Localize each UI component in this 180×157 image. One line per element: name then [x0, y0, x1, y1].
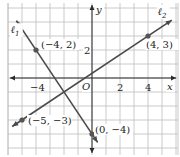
y-axis-arrow-up	[90, 5, 95, 10]
data-point	[145, 33, 150, 38]
point-label: (0, −4)	[95, 124, 130, 135]
x-tick-label: −4	[30, 82, 45, 93]
x-axis-arrow-right	[171, 76, 176, 81]
data-point	[89, 131, 94, 136]
axes	[10, 5, 176, 153]
data-point	[33, 47, 38, 52]
point-label: (−4, 2)	[41, 39, 76, 50]
y-axis-arrow-down	[90, 148, 95, 153]
point-label: (−5, −3)	[28, 115, 72, 126]
x-tick-label: 4	[145, 82, 151, 93]
y-axis-label: y	[95, 4, 102, 15]
origin-label: O	[82, 81, 90, 92]
line-label-subscript: 2	[161, 12, 167, 20]
labels: −424x2yO(−4, 2)(0, −4)(−5, −3)(4, 3)ℓ1ℓ2	[10, 4, 179, 135]
line-label-subscript: 1	[15, 30, 19, 38]
x-axis-label: x	[167, 81, 173, 92]
y-tick-label: 2	[84, 45, 90, 56]
data-point	[19, 117, 24, 122]
coordinate-plane: −424x2yO(−4, 2)(0, −4)(−5, −3)(4, 3)ℓ1ℓ2	[0, 0, 180, 157]
point-label: (4, 3)	[146, 39, 173, 50]
x-tick-label: 2	[117, 82, 123, 93]
x-axis-arrow-left	[10, 76, 15, 81]
